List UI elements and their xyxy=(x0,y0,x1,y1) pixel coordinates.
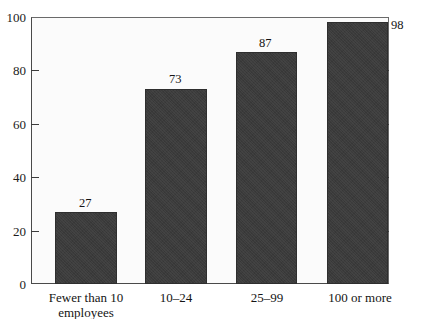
bar-100-or-more[interactable] xyxy=(327,22,388,284)
y-tick-label-20: 20 xyxy=(0,225,26,238)
bar-10-24[interactable] xyxy=(145,89,207,284)
bar-value-fewer-than-10: 27 xyxy=(79,197,92,210)
y-tick-40 xyxy=(31,177,39,178)
x-tick-label-100-or-more: 100 or more xyxy=(308,290,412,305)
x-tick-label-fewer-than-10: Fewer than 10 employees xyxy=(31,290,141,319)
y-tick-label-60: 60 xyxy=(0,118,26,131)
x-tick-label-10-24: 10–24 xyxy=(131,290,221,305)
x-tick-label-25-99: 25–99 xyxy=(222,290,312,305)
bar-value-10-24: 73 xyxy=(169,73,182,86)
y-tick-label-0: 0 xyxy=(0,278,26,291)
bar-25-99[interactable] xyxy=(236,52,297,284)
y-tick-80 xyxy=(31,70,39,71)
y-tick-60 xyxy=(31,124,39,125)
bar-value-25-99: 87 xyxy=(259,37,272,50)
y-tick-20 xyxy=(31,231,39,232)
bar-fewer-than-10[interactable] xyxy=(55,212,117,284)
y-tick-label-100: 100 xyxy=(0,11,26,24)
y-tick-label-40: 40 xyxy=(0,171,26,184)
y-tick-label-80: 80 xyxy=(0,64,26,77)
bar-value-100-or-more: 98 xyxy=(391,19,404,32)
bar-chart: 100 80 60 40 20 0 27 73 87 98 Fewer than… xyxy=(0,0,422,319)
